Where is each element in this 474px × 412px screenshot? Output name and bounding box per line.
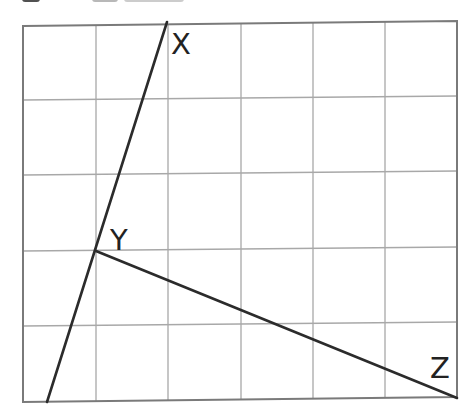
label-y: Y (109, 223, 128, 257)
grid-border (23, 21, 457, 402)
segments (47, 22, 457, 402)
grid-line-horizontal (23, 171, 457, 175)
grid-line-horizontal (23, 96, 457, 100)
point-labels: X Y Z (109, 27, 450, 385)
label-x: X (171, 27, 191, 61)
geometry-diagram: X Y Z (0, 0, 474, 412)
grid-line-horizontal (23, 322, 457, 326)
label-z: Z (430, 351, 450, 385)
grid-line-horizontal (23, 247, 457, 251)
grid (23, 21, 457, 402)
line-through-x-and-y (47, 22, 167, 402)
